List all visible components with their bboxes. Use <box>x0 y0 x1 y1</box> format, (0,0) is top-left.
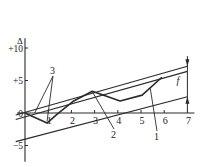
x-tick-label: 2 <box>70 115 75 126</box>
y-tick-label: +10 <box>8 44 23 54</box>
upper-envelope-line-b <box>16 71 188 119</box>
x-tick-label: 6 <box>163 115 168 126</box>
straightness-diagram: Δ +10+50−51234567 321f <box>0 0 202 167</box>
dimension-arrow-top <box>185 59 189 66</box>
y-tick-label: +5 <box>13 76 23 86</box>
x-tick-label: 5 <box>140 115 145 126</box>
annotations: 321f <box>35 56 190 142</box>
label-3: 3 <box>50 65 55 76</box>
ticks: +10+50−51234567 <box>8 44 191 152</box>
label-2: 2 <box>111 129 116 140</box>
lower-envelope-line <box>16 97 188 142</box>
y-tick-label: −5 <box>13 141 23 151</box>
x-tick-label: 7 <box>186 115 191 126</box>
dimension-arrow-bottom <box>185 97 189 104</box>
dimension-f-label: f <box>176 75 180 86</box>
label-1-leader <box>150 88 157 131</box>
axes: Δ <box>17 36 194 162</box>
x-tick-label: 4 <box>116 115 121 126</box>
label-1: 1 <box>154 131 159 142</box>
